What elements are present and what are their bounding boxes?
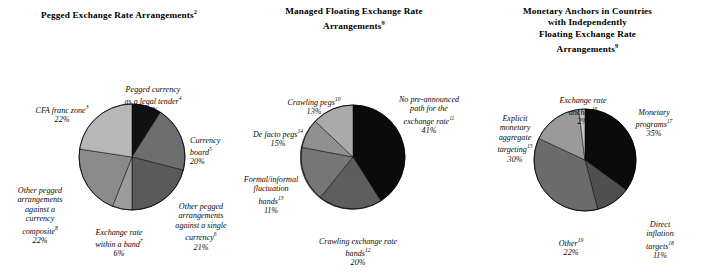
- pie-2-label-fluctuation-bands-text: Formal/informal fluctuation bands: [244, 175, 298, 206]
- pie-3-label-other: Other19 22%: [542, 226, 600, 267]
- pie-1-label-single-currency-sup: 6: [214, 231, 217, 237]
- pie-3-label-other-sup: 19: [578, 237, 584, 243]
- pie-1-label-pegged-legal-tender-sup: 4: [179, 95, 182, 101]
- pie-2-label-fluctuation-bands-pct: 11%: [238, 206, 304, 216]
- panel-title-2-superscript: 9: [382, 19, 385, 26]
- pie-3-label-other-pct: 22%: [542, 248, 600, 258]
- panel-title-3-text: Monetary Anchors in Countries with Indep…: [523, 6, 652, 54]
- pie-2-label-fluctuation-bands: Formal/informal fluctuation bands13 11%: [238, 165, 304, 225]
- pie-2-label-crawling-pegs-pct: 13%: [276, 107, 352, 117]
- pie-3-label-monetary-programs: Monetary programs17 35%: [620, 98, 688, 149]
- pie-3-label-explicit-monetary-aggregate-targeting-pct: 30%: [482, 155, 548, 165]
- pie-3-label-explicit-monetary-aggregate-targeting-sup: 15: [527, 143, 533, 149]
- pie-2-label-de-facto-pegs-text: De facto pegs: [253, 129, 298, 138]
- pie-1-label-currency-composite-sup: 8: [55, 225, 58, 231]
- pie-1-label-exchange-rate-band-text: Exchange rate within a band: [95, 228, 142, 249]
- panel-title-2: Managed Floating Exchange Rate Arrangeme…: [238, 6, 470, 33]
- pie-3-label-direct-inflation-targets-pct: 11%: [630, 251, 690, 261]
- pie-2-label-crawling-exchange-rate-bands-text: Crawling exchange rate bands: [319, 237, 397, 258]
- pie-1-label-single-currency-pct: 21%: [160, 243, 242, 253]
- pie-1-label-currency-board-sup: 5: [209, 146, 212, 152]
- pie-3-label-other-text: Other: [559, 238, 578, 247]
- pie-2-label-no-preannounced-path: No pre-announced path for the exchange r…: [386, 85, 472, 145]
- pie-3-label-monetary-programs-pct: 35%: [620, 129, 688, 139]
- pie-3-label-exchange-rate-anchor-text: Exchange rate anchor: [560, 96, 607, 117]
- pie-3-label-monetary-programs-text: Monetary programs: [636, 108, 670, 129]
- panel-title-1: Pegged Exchange Rate Arrangements2: [0, 6, 238, 21]
- pie-1-label-single-currency-text: Other pegged arrangements against a sing…: [175, 202, 226, 242]
- pie-1-label-pegged-legal-tender-pct: 9%: [108, 106, 198, 116]
- pie-3-label-explicit-monetary-aggregate-targeting: Explicit monetary aggregate targeting15 …: [482, 104, 548, 174]
- pie-2-label-de-facto-pegs-pct: 15%: [244, 139, 312, 149]
- pie-2-label-de-facto-pegs-sup: 14: [297, 128, 303, 134]
- pie-1-label-currency-composite-pct: 22%: [4, 236, 76, 246]
- pie-1-label-exchange-rate-band-sup: 7: [140, 238, 143, 244]
- pie-1-label-currency-composite: Other pegged arrangements against a curr…: [4, 176, 76, 255]
- three-pie-chart-figure: Pegged Exchange Rate Arrangements2: [0, 0, 705, 274]
- pie-2-label-crawling-exchange-rate-bands-pct: 20%: [300, 258, 416, 268]
- pie-1-label-cfa-franc-zone-pct: 22%: [22, 115, 102, 125]
- pie-2-label-crawling-pegs: Crawling pegs10 13%: [276, 85, 352, 126]
- pie-2-label-no-preannounced-path-pct: 41%: [386, 126, 472, 136]
- pie-3-label-monetary-programs-sup: 17: [667, 118, 673, 124]
- pie-1-label-currency-board: Currency board5 20%: [190, 126, 240, 177]
- pie-1-label-currency-board-text: Currency board: [190, 136, 220, 157]
- pie-1-label-currency-board-pct: 20%: [190, 157, 240, 167]
- pie-1-label-cfa-franc-zone: CFA franc zone3 22%: [22, 93, 102, 134]
- chart-panel-managed-floating: Managed Floating Exchange Rate Arrangeme…: [238, 0, 470, 274]
- pie-1-label-cfa-franc-zone-text: CFA franc zone: [36, 105, 86, 114]
- pie-2-label-crawling-pegs-sup: 10: [335, 96, 341, 102]
- pie-2-label-fluctuation-bands-sup: 13: [278, 195, 284, 201]
- panel-title-1-superscript: 2: [194, 8, 197, 15]
- pie-1-label-pegged-legal-tender: Pegged currency as a legal tender4 9%: [108, 75, 198, 126]
- pie-3-label-direct-inflation-targets: Direct inflation targets18 11%: [630, 210, 690, 270]
- pie-2-label-crawling-exchange-rate-bands-sup: 12: [365, 247, 371, 253]
- chart-panel-monetary-anchors: Monetary Anchors in Countries with Indep…: [470, 0, 705, 274]
- panel-title-3-superscript: 9: [615, 42, 618, 49]
- pie-2-label-no-preannounced-path-sup: 11: [449, 115, 454, 121]
- pie-2-label-crawling-pegs-text: Crawling pegs: [287, 97, 334, 106]
- pie-1-label-exchange-rate-band-pct: 6%: [80, 249, 158, 259]
- pie-1-label-exchange-rate-band: Exchange rate within a band7 6%: [80, 218, 158, 269]
- chart-panel-pegged-exchange-rate: Pegged Exchange Rate Arrangements2: [0, 0, 238, 274]
- pie-1-label-single-currency: Other pegged arrangements against a sing…: [160, 192, 242, 262]
- pie-3-label-exchange-rate-anchor-pct: 2%: [544, 117, 622, 127]
- pie-1-label-pegged-legal-tender-text: Pegged currency as a legal tender: [125, 85, 181, 106]
- panel-title-2-text: Managed Floating Exchange Rate Arrangeme…: [285, 6, 422, 31]
- pie-3-label-exchange-rate-anchor: Exchange rate anchor16 2%: [544, 86, 622, 137]
- panel-title-3: Monetary Anchors in Countries with Indep…: [470, 6, 705, 56]
- panel-title-1-text: Pegged Exchange Rate Arrangements: [41, 10, 194, 20]
- pie-2-label-crawling-exchange-rate-bands: Crawling exchange rate bands12 20%: [300, 227, 416, 274]
- pie-3-label-direct-inflation-targets-sup: 18: [668, 240, 674, 246]
- pie-3-label-exchange-rate-anchor-sup: 16: [592, 106, 598, 112]
- pie-1-label-cfa-franc-zone-sup: 3: [86, 104, 89, 110]
